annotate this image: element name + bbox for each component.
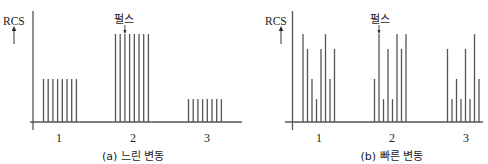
down-arrow-icon [123, 30, 126, 34]
chart-canvas [0, 0, 488, 164]
x-tick-label-1: 1 [316, 131, 322, 146]
y-axis-label-rcs: RCS [3, 15, 25, 27]
rcs-fluctuation-figure: RCS 펄스 1 2 3 (a) 느린 변동 RCS 펄스 1 2 3 (b) … [0, 0, 488, 164]
pulse-annotation: 펄스 [114, 10, 134, 26]
x-tick-label-2: 2 [389, 131, 395, 146]
pulse-annotation: 펄스 [370, 10, 390, 26]
caption-slow-fluctuation: (a) 느린 변동 [102, 147, 164, 163]
y-axis-label-rcs: RCS [265, 15, 287, 27]
caption-fast-fluctuation: (b) 빠른 변동 [361, 147, 424, 163]
panel-slow-fluctuation [12, 11, 242, 130]
x-tick-label-1: 1 [56, 131, 62, 146]
down-arrow-icon [377, 30, 380, 34]
panel-fast-fluctuation [279, 11, 483, 130]
x-tick-label-3: 3 [463, 131, 469, 146]
x-tick-label-3: 3 [204, 131, 210, 146]
x-tick-label-2: 2 [130, 131, 136, 146]
